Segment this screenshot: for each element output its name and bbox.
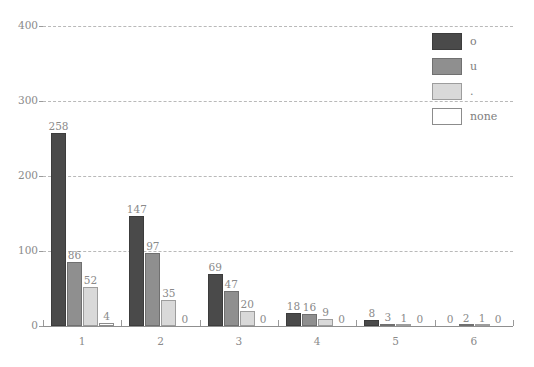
bar-value-label: 35	[155, 288, 182, 299]
bar-value-label: 20	[234, 299, 261, 310]
x-group-separator	[200, 320, 201, 326]
bar-chart: 0100200300400 25886524147973506947200181…	[0, 0, 534, 367]
bar-value-label: 97	[139, 241, 166, 252]
y-tick-label: 300	[4, 95, 38, 106]
legend-label: o	[470, 36, 477, 47]
legend-label: .	[470, 86, 474, 97]
x-tick-label-3: 3	[200, 336, 278, 347]
bar-group2-series-o	[129, 216, 144, 326]
bar-value-label: 4	[93, 311, 120, 322]
x-group-separator	[435, 320, 436, 326]
legend-swatch	[432, 83, 462, 100]
legend-swatch	[432, 108, 462, 125]
bar-value-label: 0	[250, 314, 277, 325]
bar-value-label: 147	[123, 204, 150, 215]
bar-group1-series-o	[51, 133, 66, 327]
legend-swatch	[432, 58, 462, 75]
legend-swatch	[432, 33, 462, 50]
bar-value-label: 0	[328, 314, 355, 325]
bar-value-label: 86	[61, 250, 88, 261]
bar-value-label: 0	[485, 314, 512, 325]
x-group-separator	[121, 320, 122, 326]
y-tick-label: 400	[4, 20, 38, 31]
x-axis-line	[43, 326, 513, 327]
legend-label: none	[470, 111, 497, 122]
bar-value-label: 0	[406, 314, 433, 325]
legend-label: u	[470, 61, 477, 72]
x-tick-label-5: 5	[356, 336, 434, 347]
bar-value-label: 52	[77, 275, 104, 286]
y-tick-label: 0	[4, 320, 38, 331]
bar-value-label: 0	[171, 314, 198, 325]
x-axis-end-tick	[513, 320, 514, 326]
bar-group4-series-o	[286, 313, 301, 327]
y-tick-label: 200	[4, 170, 38, 181]
bar-group1-series-u	[67, 262, 82, 327]
x-tick-label-6: 6	[435, 336, 513, 347]
y-tick-label: 100	[4, 245, 38, 256]
x-group-separator	[43, 320, 44, 326]
bar-value-label: 258	[45, 121, 72, 132]
x-group-separator	[356, 320, 357, 326]
x-tick-label-2: 2	[121, 336, 199, 347]
x-tick-label-1: 1	[43, 336, 121, 347]
x-tick-label-4: 4	[278, 336, 356, 347]
bar-value-label: 69	[202, 262, 229, 273]
x-group-separator	[278, 320, 279, 326]
bar-value-label: 47	[218, 279, 245, 290]
